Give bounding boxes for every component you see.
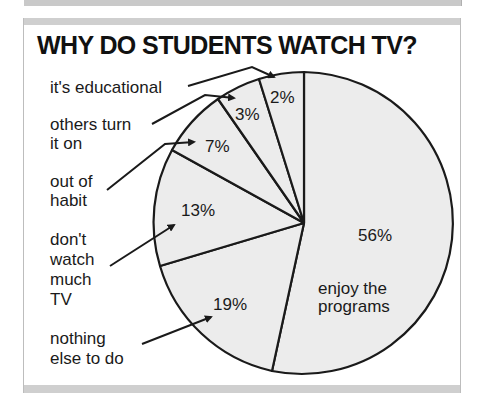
- callout-others-1: others turn: [50, 115, 131, 134]
- callout-dont-2: watch: [49, 250, 94, 269]
- value-label-others: 3%: [235, 105, 260, 124]
- pie-slices: [154, 72, 453, 374]
- callout-dont-1: don't: [50, 230, 87, 249]
- callout-dont-3: much: [50, 270, 92, 289]
- value-label-habit: 7%: [205, 137, 230, 156]
- callout-dont-4: TV: [50, 290, 72, 309]
- callout-nothing-1: nothing: [50, 329, 106, 348]
- callout-habit-1: out of: [50, 172, 93, 191]
- slice-label-enjoy-2: programs: [318, 297, 390, 316]
- callout-others-2: it on: [50, 134, 82, 153]
- value-label-nothing: 19%: [213, 295, 247, 314]
- value-label-dont: 13%: [181, 201, 215, 220]
- value-label-enjoy: 56%: [358, 226, 392, 245]
- slice-label-enjoy-1: enjoy the: [318, 279, 387, 298]
- callout-nothing-2: else to do: [50, 349, 124, 368]
- value-label-edu: 2%: [270, 88, 295, 107]
- callout-its-educational: it's educational: [50, 78, 162, 97]
- callout-habit-2: habit: [50, 191, 87, 210]
- pie-chart: 56% enjoy the programs 19% 13% 7% 3% 2% …: [0, 0, 480, 413]
